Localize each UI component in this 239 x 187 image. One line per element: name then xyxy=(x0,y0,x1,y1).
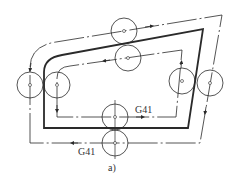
figure-caption: a) xyxy=(108,162,116,174)
inner-path-g41-label: G41 xyxy=(135,104,152,115)
tool-center-dot xyxy=(114,116,117,119)
outer-path-g41-label: G41 xyxy=(78,146,95,157)
inner-tool-path xyxy=(57,50,182,117)
tool-center-dot xyxy=(127,57,130,60)
tool-center-dot xyxy=(56,84,59,87)
tool-center-dot xyxy=(123,30,126,33)
arrow-inner-right xyxy=(181,62,182,68)
tool-center-dot xyxy=(29,84,32,87)
tool-center-dot xyxy=(181,80,184,83)
tool-center-dot xyxy=(209,82,212,85)
arrow-inner-top xyxy=(104,60,110,61)
tool-center-dot xyxy=(114,142,117,145)
tool-compensation-diagram: G41 G41 a) xyxy=(0,0,239,187)
arrow-outer-right xyxy=(205,107,206,113)
